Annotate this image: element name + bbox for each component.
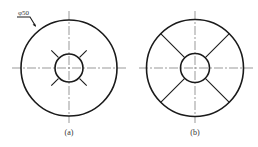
caption-a: (a) bbox=[65, 128, 74, 137]
arrowhead-icon bbox=[33, 23, 36, 27]
diameter-dimension: φ50 bbox=[17, 9, 36, 27]
caption-b: (b) bbox=[190, 128, 200, 137]
figure-b: (b) bbox=[139, 11, 253, 137]
figure-a: φ50 (a) bbox=[12, 9, 128, 137]
dimension-label: φ50 bbox=[18, 9, 30, 17]
leader-line bbox=[17, 17, 36, 26]
diagram-canvas: φ50 (a) (b) bbox=[0, 0, 258, 147]
